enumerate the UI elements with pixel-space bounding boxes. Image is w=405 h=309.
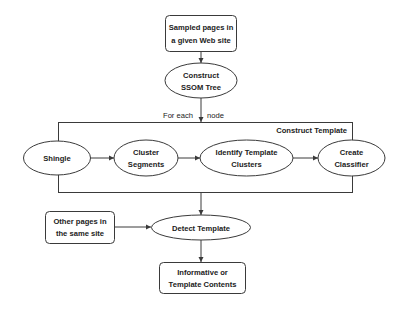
node-informative-contents: Informative or Template Contents: [160, 263, 246, 294]
node-text-line: Construct: [183, 71, 219, 80]
node-text-line: Sampled pages in: [169, 23, 234, 32]
node-text-line: SSOM Tree: [181, 83, 221, 92]
node-text-line: a given Web site: [171, 36, 230, 45]
node-cluster-segments: Cluster Segments: [114, 140, 178, 176]
identify-template-clusters-ellipse: [200, 140, 293, 176]
node-shingle: Shingle: [24, 141, 91, 175]
edge-label-for-each: For each: [163, 111, 193, 120]
node-text-line: Cluster: [133, 148, 159, 157]
group-title: Construct Template: [276, 126, 347, 135]
node-text-line: Clusters: [231, 160, 261, 169]
node-text-line: Other pages in: [53, 217, 107, 226]
cluster-segments-ellipse: [114, 140, 178, 176]
node-identify-template-clusters: Identify Template Clusters: [200, 140, 293, 176]
node-text-line: the same site: [56, 229, 104, 238]
node-construct-ssom: Construct SSOM Tree: [165, 63, 237, 98]
node-sampled-pages: Sampled pages in a given Web site: [166, 16, 237, 52]
node-text-line: Template Contents: [169, 280, 237, 289]
node-detect-template: Detect Template: [152, 215, 251, 240]
create-classifier-ellipse: [318, 140, 385, 176]
node-text-line: Create: [340, 148, 364, 157]
sampled-pages-box: [166, 16, 237, 52]
edge-label-node: node: [207, 111, 224, 120]
node-text-line: Informative or: [177, 268, 228, 277]
node-text-line: Segments: [128, 160, 164, 169]
node-text-line: Identify Template: [216, 148, 278, 157]
node-text-line: Detect Template: [172, 224, 230, 233]
construct-ssom-ellipse: [165, 63, 237, 98]
flowchart-canvas: Construct Template For each node Sampled…: [0, 0, 405, 309]
node-other-pages: Other pages in the same site: [46, 212, 115, 244]
node-text-line: Classifier: [334, 160, 368, 169]
node-text-line: Shingle: [43, 154, 70, 163]
node-create-classifier: Create Classifier: [318, 140, 385, 176]
